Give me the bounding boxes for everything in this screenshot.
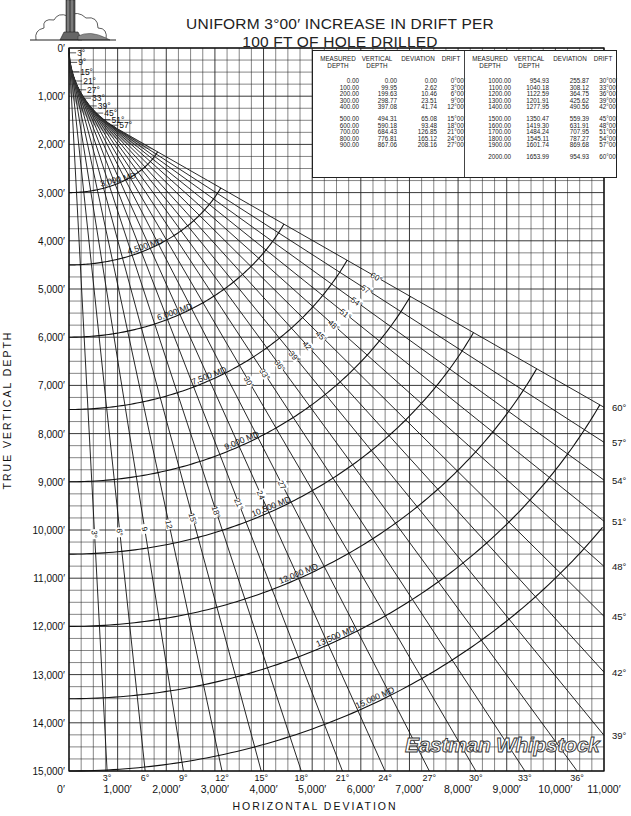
y-tick-label: 6,000′ [38,332,65,343]
bottom-angle-label: 33° [518,773,532,783]
y-tick-label: 3,000′ [38,188,65,199]
bottom-angle-label: 36° [570,773,584,783]
table-cell: 12°00′ [439,103,465,110]
md-curve-label: 12,000 MD [277,561,319,586]
inner-angle-label: 33° [257,367,271,382]
hold-angle-line-36 [87,102,577,771]
inner-angle-label: 45° [314,329,329,344]
x-tick-label: 5,000′ [298,783,326,795]
bottom-angle-label: 30° [469,773,483,783]
x-axis-title: HORIZONTAL DEVIATION [232,800,397,812]
md-curve-label: 15,000 MD [354,684,396,710]
inner-angle-label: 6° [114,528,124,537]
table-header: DRIFT [435,55,467,62]
inner-angle-label: 60° [369,271,384,285]
table-cell: 41.74 [401,103,437,110]
y-tick-label: 13,000′ [33,670,66,681]
table-cell: 869.68 [553,141,589,148]
md-curve-7500 [69,260,347,409]
md-curve-label: 4,500 MD [126,236,164,257]
table-cell: 400.00 [319,103,359,110]
inner-angle-label: 54° [349,295,364,309]
table-cell: 42°00′ [591,103,617,110]
hold-angle-line-12 [71,67,222,771]
survey-table: MEASURED DEPTHVERTICAL DEPTHDEVIATIONDRI… [312,50,617,178]
y-tick-label: 8,000′ [38,429,65,440]
table-cell: 1601.74 [511,141,549,148]
hold-angle-line-30 [81,94,475,771]
chart-title: UNIFORM 3°00′ INCREASE IN DRIFT PER [180,15,500,33]
y-tick-label: 12,000′ [33,621,66,632]
y-tick-label: 7,000′ [38,380,65,391]
right-angle-label: 45° [612,611,627,622]
table-header: DEVIATION [549,55,591,62]
x-tick-label: 2,000′ [152,783,180,795]
x-tick-label: 0′ [57,783,65,795]
table-header: VERTICAL DEPTH [507,55,551,69]
inner-angle-label: 30° [242,375,256,390]
y-axis-title: TRUE VERTICAL DEPTH [1,331,13,490]
inner-angle-label: 18° [210,505,222,519]
x-tick-label: 7,000′ [395,783,423,795]
bottom-angle-label: 6° [141,773,150,783]
x-tick-label: 6,000′ [347,783,375,795]
x-tick-label: 11,000′ [587,783,620,795]
drilling-rig-icon [28,0,118,48]
build-angle-label: 3° [77,48,85,58]
y-tick-label: 10,000′ [33,525,66,536]
inner-angle-label: 21° [232,497,245,512]
inner-angle-label: 57° [359,283,374,297]
x-tick-label: 10,000′ [538,783,572,795]
inner-angle-label: 3° [89,530,98,538]
x-tick-label: 8,000′ [444,783,472,795]
md-curve-label: 9,000 MD [223,429,261,452]
inner-angle-label: 15° [187,512,199,526]
bottom-angle-label: 3° [103,773,112,783]
table-cell: 490.56 [553,103,589,110]
table-cell: 397.08 [359,103,397,110]
y-tick-label: 14,000′ [33,718,66,729]
right-angle-label: 42° [612,667,627,678]
y-tick-label: 9,000′ [38,477,65,488]
x-tick-label: 9,000′ [493,783,521,795]
table-header: VERTICAL DEPTH [355,55,399,69]
md-curve-label: 10,500 MD [250,494,292,519]
hold-angle-line-24 [77,85,385,771]
survey-table-left: MEASURED DEPTHVERTICAL DEPTHDEVIATIONDRI… [313,51,465,176]
chart-subtitle: 100 FT OF HOLE DRILLED [180,33,500,51]
brand-watermark: Eastman Whipstock [405,733,599,757]
hold-angle-line-48 [100,116,604,566]
table-cell: 27°00′ [439,141,465,148]
bottom-angle-label: 18° [294,773,308,783]
table-cell: 2000.00 [471,153,511,160]
x-tick-label: 1,000′ [104,783,132,795]
bottom-angle-label: 24° [378,773,392,783]
right-angle-label: 57° [612,437,627,448]
right-angle-label: 39° [612,730,627,741]
inner-angle-label: 24 [255,489,267,501]
table-cell: 867.06 [359,141,397,148]
table-cell: 900.00 [319,141,359,148]
y-tick-label: 2,000′ [38,139,65,150]
table-header: DRIFT [587,55,619,62]
bottom-angle-label: 9° [179,773,188,783]
table-cell: 60°00′ [591,153,617,160]
md-curve-label: 7,500 MD [190,364,228,387]
table-cell: 208.16 [401,141,437,148]
right-angle-label: 48° [612,561,627,572]
table-cell: 1900.00 [471,141,511,148]
x-tick-label: 3,000′ [201,783,229,795]
right-angle-label: 51° [612,516,627,527]
bottom-angle-label: 27° [423,773,437,783]
y-tick-label: 4,000′ [38,236,65,247]
y-tick-label: 15,000′ [33,766,66,777]
table-header: DEVIATION [397,55,439,62]
bottom-angle-label: 12° [215,773,229,783]
survey-table-right: MEASURED DEPTHVERTICAL DEPTHDEVIATIONDRI… [465,51,617,176]
table-cell: 1400.00 [471,103,511,110]
right-angle-label: 60° [612,402,627,413]
table-cell: 57°00′ [591,141,617,148]
bottom-angle-label: 15° [254,773,268,783]
x-tick-label: 4,000′ [249,783,277,795]
y-tick-label: 11,000′ [33,573,65,584]
